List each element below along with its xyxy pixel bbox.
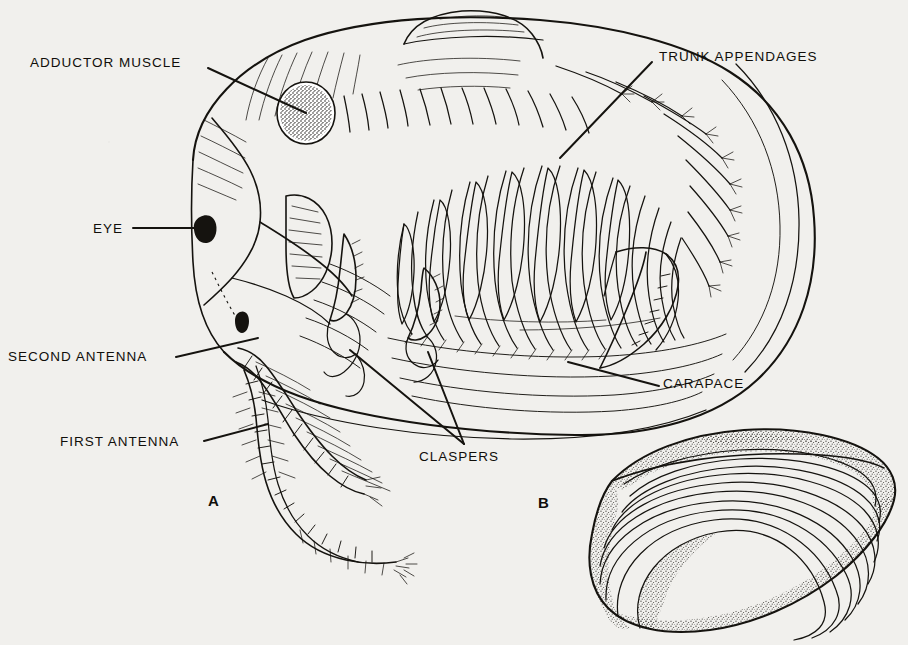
leader-claspers-left [350,350,464,444]
mandible-lobe [286,195,332,298]
leader-carapace [568,362,659,386]
cephalon-outline [204,118,352,324]
label-carapace[interactable]: CARAPACE [663,376,744,391]
panel-b-drawing [589,429,895,640]
illustration-canvas [0,0,908,645]
antennal-gland-spot [235,311,249,333]
leader-trunk-appendages [560,62,652,158]
panel-label-a: A [208,492,219,509]
panel-a-drawing [192,11,815,584]
label-adductor-muscle[interactable]: ADDUCTOR MUSCLE [30,55,181,70]
anatomy-figure-plate: ADDUCTOR MUSCLE EYE SECOND ANTENNA FIRST… [0,0,908,645]
label-eye[interactable]: EYE [93,221,123,236]
leader-lines [133,62,659,444]
label-second-antenna[interactable]: SECOND ANTENNA [8,349,147,364]
eye-spot [194,215,217,243]
hinge-striae [398,58,520,90]
leader-second-antenna [176,338,258,357]
panel-label-b: B [538,494,549,511]
label-first-antenna[interactable]: FIRST ANTENNA [60,434,179,449]
trunk-appendages-group [397,166,684,360]
dorsal-setae-row [556,66,742,297]
first-antenna [233,366,417,584]
label-trunk-appendages[interactable]: TRUNK APPENDAGES [659,49,818,64]
dorsal-margin-spines [344,88,589,133]
label-claspers[interactable]: CLASPERS [419,449,499,464]
